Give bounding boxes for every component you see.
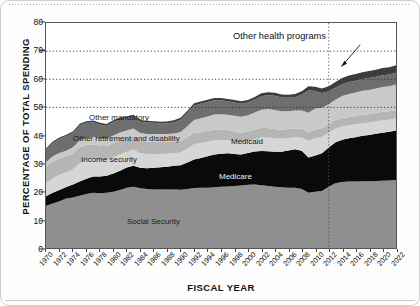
- series-label-other-retirement-and-disability: Other retirement and disability: [73, 134, 180, 143]
- series-label-social-security: Social Security: [127, 217, 180, 226]
- series-label-medicaid: Medicaid: [231, 137, 263, 146]
- callout-other-health-programs: Other health programs: [233, 31, 326, 41]
- x-tick-label: 2022: [389, 250, 406, 268]
- x-axis-title: FISCAL YEAR: [45, 282, 397, 293]
- series-label-other-mandatory: Other mandatory: [89, 113, 149, 122]
- x-axis-tick-labels: 1970197219741976197819801982198419861988…: [45, 250, 397, 284]
- page-bottom-rule: [5, 300, 415, 301]
- series-label-medicare: Medicare: [219, 172, 252, 181]
- page-top-rule: [9, 4, 411, 5]
- y-axis-title: PERCENTAGE OF TOTAL SPENDING: [20, 7, 31, 247]
- chart-page: PERCENTAGE OF TOTAL SPENDING 01020304050…: [0, 0, 420, 306]
- series-label-income-security: Income security: [81, 155, 137, 164]
